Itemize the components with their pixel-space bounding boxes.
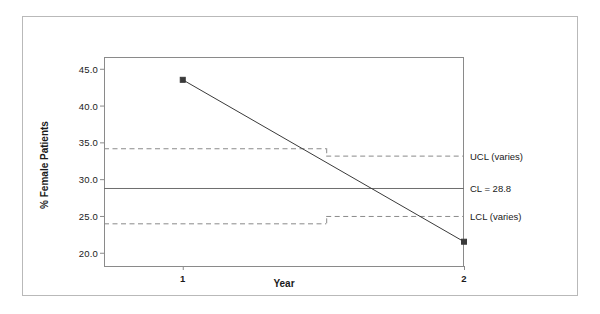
- cl-annotation: CL = 28.8: [470, 182, 511, 193]
- limit-annotations: UCL (varies)CL = 28.8LCL (varies): [0, 0, 600, 314]
- control-chart-screenshot: 45.040.035.030.025.020.0 12 % Female Pat…: [0, 0, 600, 314]
- ucl-annotation: UCL (varies): [470, 150, 523, 161]
- lcl-annotation: LCL (varies): [470, 210, 521, 221]
